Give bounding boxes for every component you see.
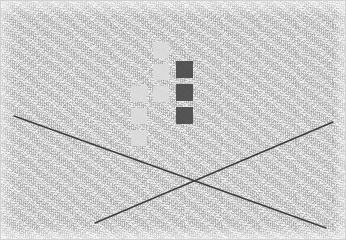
crossing-lines-group [0, 0, 346, 240]
light-gray-block [153, 64, 169, 80]
light-gray-block [131, 108, 147, 124]
dark-gray-block [176, 61, 193, 78]
scene-canvas [0, 0, 346, 240]
noise-texture-layer [0, 0, 346, 240]
light-gray-block [131, 86, 147, 102]
dark-gray-block [176, 84, 193, 101]
edge-vignette [0, 0, 346, 240]
noise-texture-layer-secondary [0, 0, 346, 240]
light-gray-block [153, 42, 169, 58]
image-frame-border [0, 0, 346, 240]
descending-diagonal-line [14, 116, 326, 228]
light-gray-block [153, 86, 169, 102]
dark-gray-block [176, 107, 193, 124]
light-gray-block [131, 130, 147, 146]
